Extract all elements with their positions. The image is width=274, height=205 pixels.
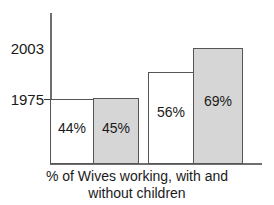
- y-axis-label-2003: 2003: [0, 41, 44, 56]
- chart-caption-line-2: without children: [0, 185, 274, 202]
- y-axis-label-1975: 1975: [0, 92, 44, 107]
- bar-label-69: 69%: [193, 94, 243, 108]
- chart-caption: % of Wives working, with and without chi…: [0, 168, 274, 202]
- plot-area: 2003 1975 44% 45% 56% 69%: [0, 0, 274, 170]
- bar-label-44: 44%: [50, 121, 94, 135]
- bar-label-45: 45%: [93, 121, 139, 135]
- chart-caption-line-1: % of Wives working, with and: [0, 168, 274, 185]
- bar-chart: 2003 1975 44% 45% 56% 69% % of Wives wor…: [0, 0, 274, 205]
- bar-label-56: 56%: [148, 105, 194, 119]
